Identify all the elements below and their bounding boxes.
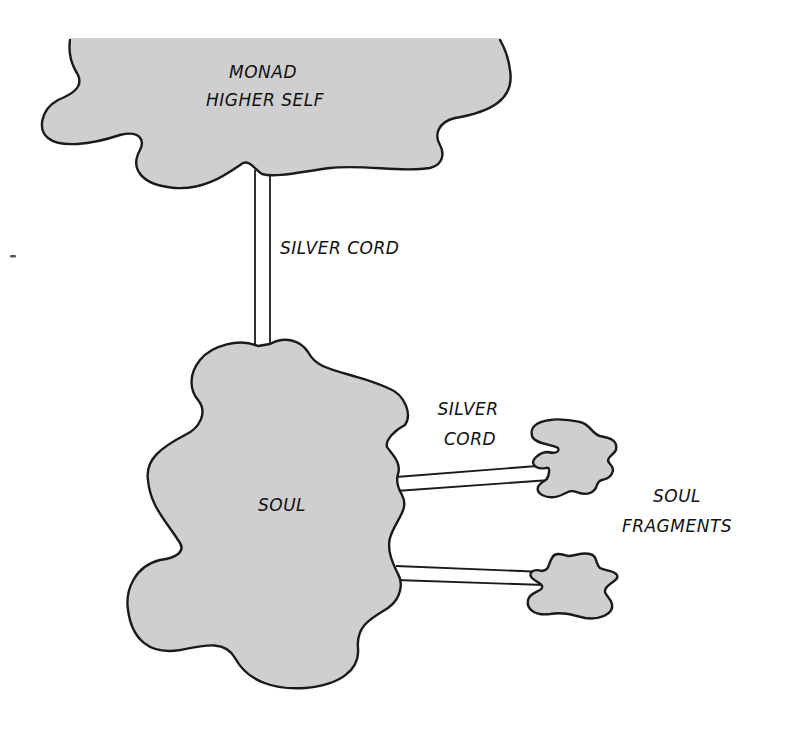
silver-cord-label-right-line1: SILVER [437,399,498,419]
soul-cloud: SOUL [127,340,407,688]
silver-cord-label-vertical: SILVER CORD [280,238,399,258]
soul-diagram: MONAD HIGHER SELF SILVER CORD SOUL SILVE… [0,0,792,729]
silver-cord-to-fragment-1 [396,465,550,491]
soul-fragment-1 [532,419,617,497]
higher-self-label: HIGHER SELF [206,90,324,110]
stray-mark [10,255,16,258]
silver-cord-label-right-line2: CORD [444,429,496,449]
soul-fragments-label-line2: FRAGMENTS [622,516,732,536]
soul-fragments-label-line1: SOUL [653,486,701,506]
monad-cloud: MONAD HIGHER SELF [42,38,511,188]
silver-cord-vertical [255,170,270,350]
silver-cord-to-fragment-2 [396,566,545,585]
soul-fragment-2 [528,553,618,618]
monad-label: MONAD [229,62,297,82]
soul-label: SOUL [258,495,306,515]
